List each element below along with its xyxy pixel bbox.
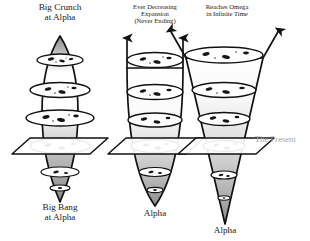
title-closed-universe: Big Crunch at Alpha [12,3,108,23]
label-alpha-right: Alpha [180,226,270,236]
galaxy-disk-icon [211,171,237,179]
galaxy-disk-icon [139,168,171,177]
galaxy-disk-icon [30,83,90,98]
title-omega-line1: Reaches Omega [182,3,272,10]
label-big-bang: Big Bang at Alpha [12,203,108,223]
diagram-canvas: Big Crunch at Alpha Ever Decreasing Expa… [0,0,310,241]
title-expansion-line3: (Never Ending) [110,17,200,24]
galaxy-disk-icon [127,53,183,68]
galaxy-disk-icon [192,83,256,98]
galaxy-disk-icon [128,113,182,127]
title-reaches-omega: Reaches Omega in Infinite Time [182,3,272,17]
label-big-bang-line2: at Alpha [12,213,108,223]
galaxy-disk-icon [26,110,94,126]
galaxy-disk-icon [37,54,83,66]
title-omega-line2: in Infinite Time [182,10,272,17]
label-alpha-right-text: Alpha [180,226,270,236]
panel-reaches-omega [170,30,279,224]
label-the-present: The Present [255,134,296,144]
galaxy-disk-icon [127,85,183,100]
galaxy-disk-icon [147,187,163,192]
panel-closed-universe [12,36,108,202]
label-alpha-middle-text: Alpha [110,209,200,219]
galaxy-disk-icon [218,196,230,200]
label-alpha-middle: Alpha [110,209,200,219]
galaxy-disk-icon [50,185,70,191]
galaxy-disk-icon [41,167,79,177]
up-arrow-icon [263,30,279,58]
title-closed-universe-line2: at Alpha [12,13,108,23]
galaxy-disk-icon [198,113,250,126]
galaxy-disk-icon [185,47,263,63]
present-plane-icon [12,138,108,154]
